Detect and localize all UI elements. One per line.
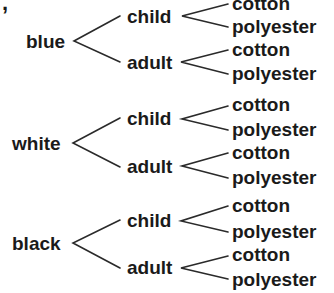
leaf-node-polyester: polyester xyxy=(232,120,316,139)
branch-node-child: child xyxy=(127,109,171,128)
leaf-node-cotton: cotton xyxy=(232,95,290,114)
leaf-node-polyester: polyester xyxy=(232,270,316,289)
leaf-node-polyester: polyester xyxy=(232,222,316,241)
leaf-node-polyester: polyester xyxy=(232,168,316,187)
branch-node-adult: adult xyxy=(127,53,172,72)
root-node-white: white xyxy=(12,134,61,153)
branch-node-child: child xyxy=(127,7,171,26)
leaf-node-cotton: cotton xyxy=(232,245,290,264)
leaf-node-cotton: cotton xyxy=(232,40,290,59)
leaf-node-cotton: cotton xyxy=(232,0,290,13)
branch-node-child: child xyxy=(127,211,171,230)
leaf-node-polyester: polyester xyxy=(232,64,316,83)
leaf-node-polyester: polyester xyxy=(232,17,316,36)
root-node-blue: blue xyxy=(26,32,65,51)
branch-node-adult: adult xyxy=(127,258,172,277)
leaf-node-cotton: cotton xyxy=(232,196,290,215)
root-node-black: black xyxy=(12,234,61,253)
branch-node-adult: adult xyxy=(127,157,172,176)
leaf-node-cotton: cotton xyxy=(232,143,290,162)
